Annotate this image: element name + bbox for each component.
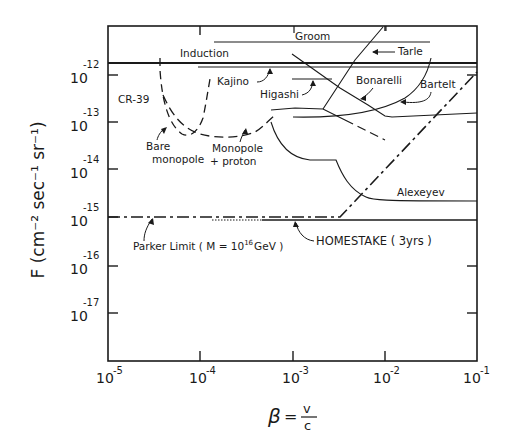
x-tick-labels: 10 -5 10 -4 10 -3 10 -2 10 -1 [96,365,490,386]
svg-text:-5: -5 [113,365,123,376]
label-bare: Bare [146,140,170,152]
bartelt-arrow-icon [403,92,431,103]
svg-text:10: 10 [70,165,88,181]
label-parker-limit: Parker Limit ( M = 1016GeV ) [133,239,283,252]
svg-text:-12: -12 [83,59,99,70]
label-plus-proton: + proton [210,155,257,167]
svg-text:10: 10 [70,308,88,324]
homestake-arrowhead-icon [293,221,299,227]
tarle-arrowhead-icon [372,49,378,55]
svg-text:-13: -13 [83,107,99,118]
label-induction: Induction [180,47,229,59]
svg-text:-17: -17 [83,297,99,308]
dashed-continuation [345,120,385,140]
svg-text:10: 10 [70,70,88,86]
svg-text:-3: -3 [299,365,309,376]
kajino-arrow-icon [257,69,270,82]
y-axis-title: F (cm⁻² sec⁻¹ sr⁻¹) [28,121,48,278]
label-alexeyev: Alexeyev [397,186,445,198]
svg-text:10: 10 [96,370,114,386]
svg-text:10: 10 [70,213,88,229]
svg-text:-15: -15 [83,202,99,213]
svg-text:-2: -2 [390,365,400,376]
svg-text:-4: -4 [206,365,216,376]
label-bartelt: Bartelt [420,78,456,90]
svg-text:10: 10 [463,370,481,386]
svg-text:-1: -1 [480,365,490,376]
svg-text:10: 10 [70,118,88,134]
svg-text:=: = [284,407,297,426]
svg-text:10: 10 [373,370,391,386]
x-ticks-top [200,26,385,35]
y-ticks-left [108,75,118,313]
tarle-line [323,27,383,109]
svg-text:10: 10 [282,370,300,386]
svg-text:c: c [304,418,311,433]
higashi-arrowhead-icon [310,80,316,86]
cr39-monopole-proton-curve [163,95,274,137]
monopole-proton-arrowhead-icon [242,128,248,134]
x-ticks-bottom [200,351,385,361]
label-bare-monopole: monopole [152,153,204,165]
x-axis-title: β = v c [267,401,317,433]
label-kajino: Kajino [217,75,249,87]
svg-text:-16: -16 [83,250,99,261]
label-groom: Groom [295,30,330,42]
svg-text:β: β [267,404,281,428]
homestake-arrow-icon [296,223,314,241]
chart-figure: 10 -12 10 -13 10 -14 10 -15 10 -16 10 -1… [0,0,518,447]
svg-text:v: v [303,401,311,416]
higashi-arrow-icon [302,81,313,95]
kajino-arrowhead-icon [267,68,273,74]
svg-text:-14: -14 [83,154,99,165]
y-tick-labels: 10 -12 10 -13 10 -14 10 -15 10 -16 10 -1… [70,59,99,324]
label-cr39: CR-39 [118,93,149,105]
label-bonarelli: Bonarelli [356,74,402,86]
label-higashi: Higashi [260,88,299,100]
label-tarle: Tarle [397,45,423,57]
y-ticks-right [467,75,477,313]
bonarelli-arrow-icon [362,88,373,98]
svg-text:10: 10 [189,370,207,386]
svg-text:10: 10 [70,261,88,277]
label-monopole: Monopole [212,142,263,154]
cr39-bare-monopole-curve [160,58,210,135]
plateau-line [271,108,345,120]
label-homestake: HOMESTAKE ( 3yrs ) [316,234,432,248]
